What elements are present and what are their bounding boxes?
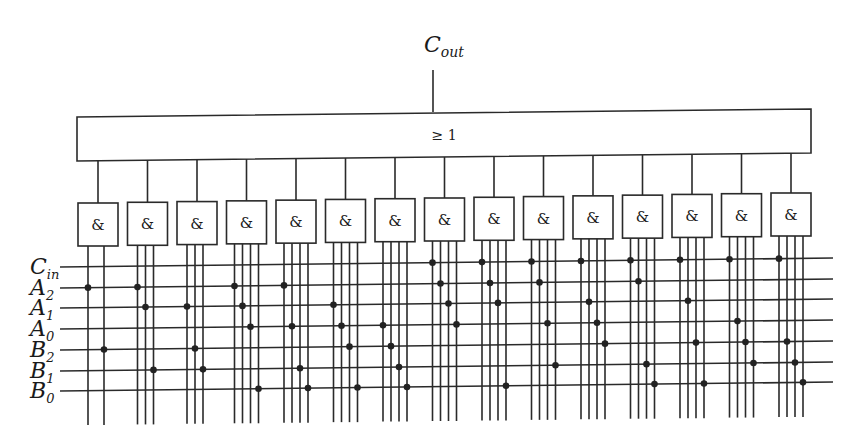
and-gate-label: & xyxy=(289,213,302,231)
and-gate-7: & xyxy=(375,158,415,422)
svg-text:Cout: Cout xyxy=(424,32,464,60)
input-lines xyxy=(60,258,833,391)
connection-dot-cin xyxy=(627,257,634,264)
and-gate-8: & xyxy=(425,157,465,421)
and-gate-label: & xyxy=(339,212,352,230)
and-gate-1: & xyxy=(78,161,118,425)
input-label-name: B xyxy=(29,378,46,403)
connection-dot-b0 xyxy=(503,383,510,390)
connection-dot-a1 xyxy=(184,303,191,310)
input-label-sub: 2 xyxy=(45,288,54,303)
connection-dot-b1 xyxy=(552,362,559,369)
connection-dot-a2 xyxy=(635,278,642,285)
connection-dot-b2 xyxy=(101,346,108,353)
input-line-b0 xyxy=(60,382,833,391)
connection-dot-b1 xyxy=(396,364,403,371)
and-gate-label: & xyxy=(438,211,451,229)
connection-dot-a2 xyxy=(281,282,288,289)
and-gate-11: & xyxy=(573,155,613,419)
input-line-a2 xyxy=(60,279,833,288)
connection-dot-cin xyxy=(776,255,783,262)
connection-dot-a1 xyxy=(495,300,502,307)
input-line-a0 xyxy=(60,320,833,329)
connection-dot-a1 xyxy=(445,300,452,307)
carry-out-logic-diagram: Cout ≥ 1 CinA2A1A0B2B1B0 &&&&&&&&&&&&&&& xyxy=(0,0,858,443)
connection-dot-b0 xyxy=(305,385,312,392)
connection-dot-b2 xyxy=(346,343,353,350)
and-gate-label: & xyxy=(388,212,401,230)
connection-dot-b1 xyxy=(750,360,757,367)
connection-dot-b1 xyxy=(297,365,304,372)
connection-dot-a0 xyxy=(594,319,601,326)
and-gate-label: & xyxy=(487,210,500,228)
and-gate-label: & xyxy=(586,209,599,227)
and-gate-4: & xyxy=(227,159,267,423)
connection-dot-a0 xyxy=(544,320,551,327)
connection-dot-cin xyxy=(528,258,535,265)
connection-dot-a0 xyxy=(289,323,296,330)
connection-dot-b0 xyxy=(701,380,708,387)
connection-dot-a2 xyxy=(134,284,141,291)
and-gate-label: & xyxy=(91,216,104,234)
connection-dot-a1 xyxy=(239,303,246,310)
input-label-sub: 0 xyxy=(46,391,54,406)
and-gate-13: & xyxy=(672,154,712,418)
connection-dot-a0 xyxy=(380,322,387,329)
and-gate-label: & xyxy=(784,206,797,224)
connection-dot-b1 xyxy=(200,366,207,373)
input-label-sub: 1 xyxy=(46,308,54,323)
connection-dot-b2 xyxy=(602,340,609,347)
output-label-sub: out xyxy=(441,44,464,60)
connection-dot-a2 xyxy=(437,280,444,287)
connection-dot-a2 xyxy=(85,284,92,291)
connection-dot-a1 xyxy=(142,304,149,311)
output-label-name: C xyxy=(424,32,441,57)
input-label-sub: 1 xyxy=(46,371,54,386)
connection-dot-b1 xyxy=(150,367,157,374)
connection-dot-cin xyxy=(429,259,436,266)
input-line-cin xyxy=(60,258,833,267)
connection-dot-b1 xyxy=(792,359,799,366)
and-gate-label: & xyxy=(636,208,649,226)
input-label-sub: 2 xyxy=(45,350,54,365)
connection-dot-a2 xyxy=(231,283,238,290)
connection-dot-b2 xyxy=(192,345,199,352)
input-line-b2 xyxy=(60,341,833,350)
connection-dot-b1 xyxy=(643,361,650,368)
connection-dot-b0 xyxy=(404,384,411,391)
connection-dot-cin xyxy=(479,259,486,266)
connection-dot-b0 xyxy=(255,385,262,392)
connection-dot-b0 xyxy=(651,381,658,388)
connection-dot-a2 xyxy=(536,279,543,286)
and-gate-15: & xyxy=(771,153,811,417)
connection-dot-b2 xyxy=(388,343,395,350)
connection-dot-cin xyxy=(726,256,733,263)
input-label-sub: 0 xyxy=(46,329,54,344)
output-label: Cout xyxy=(424,32,464,60)
connection-dot-a0 xyxy=(338,322,345,329)
and-gate-10: & xyxy=(524,156,564,420)
or-gate: ≥ 1 xyxy=(77,109,811,161)
connection-dot-b0 xyxy=(354,384,361,391)
and-gate-label: & xyxy=(190,215,203,233)
connection-dot-a0 xyxy=(247,323,254,330)
connection-dot-a1 xyxy=(685,297,692,304)
connection-dot-cin xyxy=(677,256,684,263)
connection-dot-a1 xyxy=(586,299,593,306)
and-gates: &&&&&&&&&&&&&&& xyxy=(78,153,811,425)
connection-dot-b2 xyxy=(693,339,700,346)
and-gate-label: & xyxy=(685,207,698,225)
and-gate-label: & xyxy=(141,215,154,233)
and-gate-2: & xyxy=(128,160,168,424)
input-label-sub: in xyxy=(47,267,60,282)
and-gate-9: & xyxy=(474,156,514,420)
and-gate-6: & xyxy=(326,158,366,422)
and-gate-label: & xyxy=(240,214,253,232)
connection-dot-a0 xyxy=(734,318,741,325)
and-gate-12: & xyxy=(623,155,663,419)
and-gate-label: & xyxy=(735,207,748,225)
and-gate-label: & xyxy=(537,210,550,228)
input-labels: CinA2A1A0B2B1B0 xyxy=(28,254,59,406)
and-gate-5: & xyxy=(276,159,316,423)
connection-dot-a2 xyxy=(487,280,494,287)
